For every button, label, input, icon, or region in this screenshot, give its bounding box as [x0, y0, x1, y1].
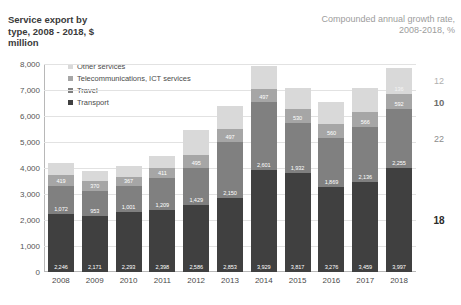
bar-segment[interactable]: 2,398: [149, 210, 175, 272]
bar-segment[interactable]: 566: [352, 112, 378, 127]
bar-segment-label: 2,601: [251, 162, 277, 169]
bar-segment[interactable]: 1,869: [318, 138, 344, 187]
y-axis-tick-label: 7,000: [4, 86, 40, 95]
cagr-value: 10: [425, 96, 453, 107]
bar-segment[interactable]: 1,209: [149, 178, 175, 209]
bar-segment[interactable]: 1,932: [285, 123, 311, 173]
bar-segment[interactable]: 953: [82, 191, 108, 216]
y-axis-tick-label: 4,000: [4, 164, 40, 173]
bar-segment[interactable]: 367: [116, 177, 142, 187]
y-axis-tick-label: 3,000: [4, 190, 40, 199]
bar-segment-label: 3,997: [386, 264, 412, 271]
bar-segment[interactable]: 497: [251, 89, 277, 102]
bar-segment-label: 2,246: [48, 264, 74, 271]
chart-title-right-cagr: Compounded annual growth rate, 2008-2018…: [240, 14, 455, 36]
bar-segment-label: 495: [183, 160, 209, 167]
bar-segment-label: 3,276: [318, 264, 344, 271]
bar-segment[interactable]: 419: [48, 175, 74, 186]
bar-segment[interactable]: [183, 130, 209, 154]
bar-column[interactable]: 4972,1502,853: [217, 64, 243, 272]
x-axis-tick-label: 2015: [285, 276, 311, 285]
bar-column[interactable]: 4951,4292,586: [183, 64, 209, 272]
bar-segment[interactable]: 370: [82, 181, 108, 191]
bar-segment[interactable]: [318, 102, 344, 124]
bar-segment-label: 367: [116, 178, 142, 185]
bar-segment[interactable]: 2,171: [82, 216, 108, 272]
bar-segment-label: 566: [352, 119, 378, 126]
cagr-value: 22: [425, 134, 453, 144]
bar-segment[interactable]: 2,853: [217, 198, 243, 272]
y-axis-tick-label: 6,000: [4, 112, 40, 121]
bar-segment-label: 1,429: [183, 197, 209, 204]
plot-area: 4191,0722,2463709532,1713671,0012,293411…: [44, 64, 416, 272]
bar-segment[interactable]: 3,997: [386, 168, 412, 272]
bar-group: 4191,0722,2463709532,1713671,0012,293411…: [44, 64, 416, 272]
bar-column[interactable]: 3671,0012,293: [116, 64, 142, 272]
bar-column[interactable]: 5601,8693,276: [318, 64, 344, 272]
bar-segment-label: 136: [386, 86, 412, 93]
bar-segment[interactable]: 3,929: [251, 170, 277, 272]
bar-segment-label: 1,001: [116, 204, 142, 211]
bar-segment[interactable]: 2,246: [48, 214, 74, 272]
bar-segment[interactable]: 3,817: [285, 173, 311, 272]
bar-segment-label: 2,853: [217, 264, 243, 271]
bar-segment[interactable]: 592: [386, 94, 412, 109]
bar-segment-label: 1,209: [149, 202, 175, 209]
bar-segment-label: 419: [48, 178, 74, 185]
x-axis-tick-labels: 2008200920102011201220132014201520162017…: [44, 276, 416, 285]
bar-segment-label: 497: [251, 94, 277, 101]
bar-segment[interactable]: 136: [386, 68, 412, 94]
bar-segment[interactable]: 1,001: [116, 186, 142, 212]
bar-segment[interactable]: [251, 66, 277, 89]
bar-column[interactable]: 5301,9323,817: [285, 64, 311, 272]
bar-segment-label: 560: [318, 130, 344, 137]
bar-segment-label: 2,171: [82, 264, 108, 271]
bar-segment[interactable]: 497: [217, 129, 243, 142]
bar-segment-label: 2,136: [352, 174, 378, 181]
bar-segment[interactable]: [352, 88, 378, 112]
bar-segment[interactable]: 2,255: [386, 109, 412, 168]
x-axis-tick-label: 2014: [251, 276, 277, 285]
cagr-value: 12: [425, 76, 453, 86]
bar-segment[interactable]: 411: [149, 168, 175, 179]
bar-segment[interactable]: [82, 171, 108, 181]
bar-segment-label: 2,255: [386, 160, 412, 167]
bar-column[interactable]: 4972,6013,929: [251, 64, 277, 272]
bar-segment[interactable]: [116, 166, 142, 176]
y-axis-tick-label: 0: [4, 268, 40, 277]
bar-segment[interactable]: [285, 88, 311, 109]
y-axis-tick-label: 2,000: [4, 216, 40, 225]
bar-segment[interactable]: 2,136: [352, 127, 378, 183]
bar-segment[interactable]: 495: [183, 155, 209, 168]
bar-segment[interactable]: [149, 156, 175, 167]
bar-column[interactable]: 3709532,171: [82, 64, 108, 272]
bar-segment[interactable]: 3,276: [318, 187, 344, 272]
bar-segment-label: 411: [149, 170, 175, 177]
bar-segment[interactable]: 2,293: [116, 212, 142, 272]
bar-segment-label: 953: [82, 208, 108, 215]
x-axis-tick-label: 2009: [82, 276, 108, 285]
x-axis-tick-label: 2016: [318, 276, 344, 285]
bar-segment[interactable]: [217, 106, 243, 129]
x-axis-tick-label: 2017: [352, 276, 378, 285]
bar-segment[interactable]: 560: [318, 124, 344, 139]
x-axis-tick-label: 2018: [386, 276, 412, 285]
bar-column[interactable]: 5662,1363,459: [352, 64, 378, 272]
bar-segment[interactable]: 3,459: [352, 182, 378, 272]
bar-segment[interactable]: 1,072: [48, 186, 74, 214]
service-export-stacked-bar-chart: Service export by type, 2008 - 2018, $ m…: [0, 0, 461, 305]
x-axis-tick-label: 2011: [149, 276, 175, 285]
bar-column[interactable]: 4111,2092,398: [149, 64, 175, 272]
bar-segment[interactable]: 530: [285, 109, 311, 123]
bar-segment[interactable]: [48, 163, 74, 175]
bar-segment[interactable]: 2,586: [183, 205, 209, 272]
bar-segment-label: 2,586: [183, 264, 209, 271]
bar-segment[interactable]: 1,429: [183, 168, 209, 205]
y-axis-tick-label: 8,000: [4, 60, 40, 69]
chart-title-left: Service export by type, 2008 - 2018, $ m…: [8, 14, 158, 49]
bar-segment-label: 2,293: [116, 264, 142, 271]
bar-segment[interactable]: 2,601: [251, 102, 277, 170]
bar-column[interactable]: 4191,0722,246: [48, 64, 74, 272]
bar-segment[interactable]: 2,150: [217, 142, 243, 198]
bar-column[interactable]: 1365922,2553,997: [386, 64, 412, 272]
